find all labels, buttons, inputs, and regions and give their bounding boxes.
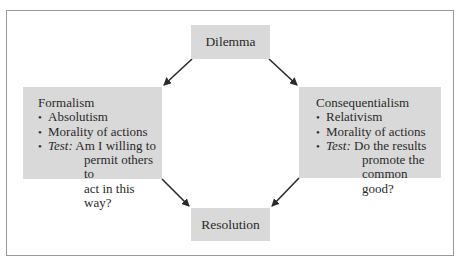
arrow-formalism-to-resolution <box>162 179 189 206</box>
formalism-list: Absolutism Morality of actions Test: Am … <box>38 110 162 210</box>
test-line: permit others to <box>48 153 162 182</box>
test-line: act in this way? <box>48 182 162 211</box>
formalism-title: Formalism <box>38 96 162 110</box>
test-label: Test: <box>326 138 351 153</box>
list-item: Morality of actions <box>316 125 441 139</box>
resolution-label: Resolution <box>201 217 260 233</box>
test-line: promote the <box>326 153 441 167</box>
consequentialism-title: Consequentialism <box>316 96 441 110</box>
test-line: Do the results <box>354 138 426 153</box>
list-item-test: Test: Do the resultspromote thecommon go… <box>316 139 441 196</box>
arrow-dilemma-to-consequentialism <box>269 59 297 85</box>
arrow-consequentialism-to-resolution <box>272 178 299 206</box>
list-item-test: Test: Am I willing topermit others toact… <box>38 139 162 210</box>
consequentialism-box: Consequentialism Relativism Morality of … <box>299 87 441 178</box>
resolution-box: Resolution <box>191 208 270 241</box>
consequentialism-list: Relativism Morality of actions Test: Do … <box>316 110 441 196</box>
test-line: common good? <box>326 167 441 196</box>
list-item: Relativism <box>316 110 441 124</box>
list-item: Absolutism <box>38 110 162 124</box>
formalism-box: Formalism Absolutism Morality of actions… <box>23 87 162 179</box>
arrow-dilemma-to-formalism <box>164 59 192 85</box>
test-line: Am I willing to <box>75 138 156 153</box>
test-label: Test: <box>48 138 73 153</box>
list-item: Morality of actions <box>38 125 162 139</box>
dilemma-box: Dilemma <box>191 25 270 59</box>
dilemma-label: Dilemma <box>205 34 255 50</box>
